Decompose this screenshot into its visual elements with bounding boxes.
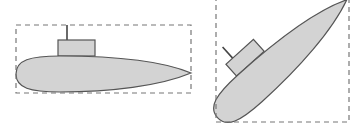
- diagram-svg: [0, 0, 364, 127]
- submarine-shape-rotated: [185, 0, 360, 127]
- submarine-horizontal: [16, 25, 191, 93]
- submarine-rotated: [185, 0, 360, 127]
- submarine-shape: [16, 25, 191, 92]
- diagram-canvas: [0, 0, 364, 127]
